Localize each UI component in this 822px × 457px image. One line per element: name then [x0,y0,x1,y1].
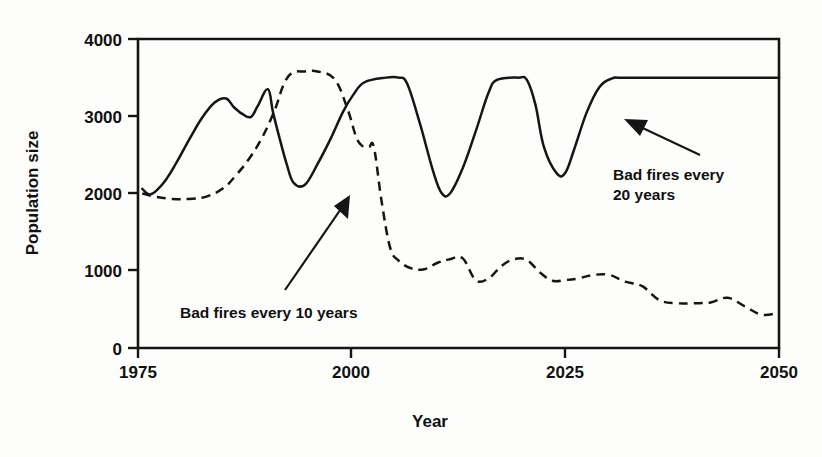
x-tick-label-2025: 2025 [546,363,584,382]
y-axis-tick-labels: 4000 3000 2000 1000 0 [84,31,122,359]
population-size-line-chart: 4000 3000 2000 1000 0 1975 2000 2025 205… [0,0,822,457]
y-tick-label-3000: 3000 [84,108,122,127]
axis-frame-path [138,39,779,348]
y-tick-label-0: 0 [113,340,122,359]
x-axis-ticks [138,348,779,358]
annotation-arrow-line-10 [285,203,345,290]
x-tick-label-2050: 2050 [760,363,798,382]
annotation-bad-fires-10-years: Bad fires every 10 years [180,195,358,321]
y-tick-label-2000: 2000 [84,185,122,204]
y-tick-label-1000: 1000 [84,262,122,281]
annotation-bad-fires-20-years: Bad fires every 20 years [613,119,725,203]
y-tick-label-4000: 4000 [84,31,122,50]
x-tick-label-2000: 2000 [332,363,370,382]
annotation-label-10-line1: Bad fires every 10 years [180,304,358,321]
y-axis-ticks [128,39,138,348]
annotation-arrow-head-20-icon [624,119,648,136]
x-tick-label-1975: 1975 [119,363,157,382]
x-axis-tick-labels: 1975 2000 2025 2050 [119,363,798,382]
x-axis-title: Year [412,412,448,431]
series-line-bad-fires-every-10-years [142,71,779,315]
plot-frame [138,39,779,348]
y-axis-title: Population size [23,131,42,256]
annotation-label-20-line2: 20 years [613,186,675,203]
figure-canvas: 4000 3000 2000 1000 0 1975 2000 2025 205… [0,0,822,457]
annotation-label-20-line1: Bad fires every [613,166,725,183]
